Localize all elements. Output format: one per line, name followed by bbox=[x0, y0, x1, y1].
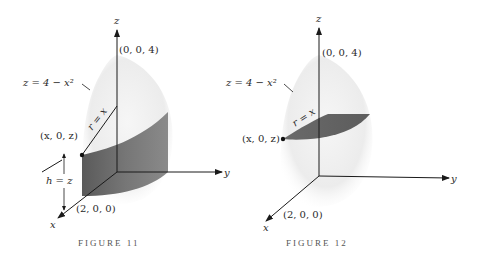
point-dot bbox=[281, 137, 285, 141]
figure-11: z y x (0, 0, 4) z = 4 − x² r = x (x, 0, … bbox=[22, 15, 230, 248]
y-axis-label: y bbox=[223, 167, 230, 178]
surface-equation-label: z = 4 − x² bbox=[22, 77, 74, 88]
x-axis-label: x bbox=[263, 222, 269, 233]
surface-equation-label: z = 4 − x² bbox=[225, 77, 277, 88]
z-axis-label: z bbox=[113, 15, 120, 26]
apex-label: (0, 0, 4) bbox=[119, 44, 159, 55]
figure-caption: FIGURE 12 bbox=[286, 238, 348, 248]
figure-12: z y x (0, 0, 4) z = 4 − x² r = x (x, 0, … bbox=[225, 13, 457, 248]
radius-line-extension bbox=[42, 160, 62, 172]
point-label: (x, 0, z) bbox=[242, 133, 280, 144]
z-axis-label: z bbox=[315, 13, 322, 24]
figure-caption: FIGURE 11 bbox=[78, 238, 139, 248]
point-label: (x, 0, z) bbox=[40, 130, 78, 141]
x-intercept-label: (2, 0, 0) bbox=[76, 203, 116, 214]
point-dot bbox=[80, 153, 84, 157]
surface-pointer bbox=[284, 84, 293, 92]
figures-canvas: z y x (0, 0, 4) z = 4 − x² r = x (x, 0, … bbox=[0, 0, 478, 265]
y-axis-label: y bbox=[450, 173, 457, 184]
surface-pointer bbox=[82, 84, 90, 90]
x-intercept-label: (2, 0, 0) bbox=[283, 209, 323, 220]
apex-label: (0, 0, 4) bbox=[322, 47, 362, 58]
x-axis-label: x bbox=[50, 219, 56, 230]
height-label: h = z bbox=[46, 175, 73, 186]
